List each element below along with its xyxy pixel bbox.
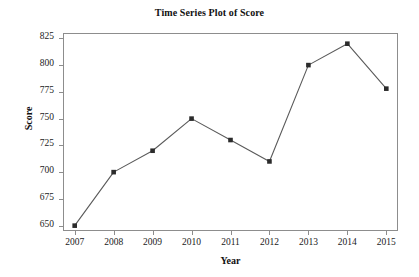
- y-tick-label: 650: [20, 219, 54, 229]
- x-tick-mark: [114, 231, 115, 235]
- data-point-marker: [189, 116, 194, 121]
- x-tick-label: 2015: [365, 237, 407, 247]
- data-point-marker: [111, 170, 116, 175]
- data-point-marker: [228, 138, 233, 143]
- x-tick-mark: [347, 231, 348, 235]
- y-tick-label: 675: [20, 192, 54, 202]
- x-tick-label: 2010: [171, 237, 213, 247]
- x-tick-mark: [308, 231, 309, 235]
- x-tick-label: 2014: [326, 237, 368, 247]
- y-tick-label: 800: [20, 58, 54, 68]
- y-tick-label: 825: [20, 31, 54, 41]
- x-tick-label: 2012: [248, 237, 290, 247]
- x-tick-mark: [192, 231, 193, 235]
- x-tick-label: 2007: [54, 237, 96, 247]
- score-marker-group: [72, 41, 388, 228]
- data-point-marker: [306, 63, 311, 68]
- time-series-chart: Time Series Plot of Score 65067570072575…: [0, 0, 419, 277]
- x-tick-mark: [386, 231, 387, 235]
- x-tick-mark: [153, 231, 154, 235]
- x-tick-mark: [231, 231, 232, 235]
- x-axis-title: Year: [63, 255, 398, 266]
- chart-title: Time Series Plot of Score: [0, 7, 419, 18]
- data-point-marker: [384, 86, 389, 91]
- x-tick-label: 2013: [287, 237, 329, 247]
- x-tick-mark: [269, 231, 270, 235]
- data-series-layer: [63, 33, 398, 231]
- score-line: [75, 44, 387, 226]
- x-tick-mark: [75, 231, 76, 235]
- data-point-marker: [72, 223, 77, 228]
- y-axis-title: Score: [23, 89, 34, 149]
- x-tick-label: 2008: [93, 237, 135, 247]
- x-tick-label: 2009: [132, 237, 174, 247]
- data-point-marker: [267, 159, 272, 164]
- y-tick-label: 700: [20, 165, 54, 175]
- data-point-marker: [345, 41, 350, 46]
- x-tick-label: 2011: [210, 237, 252, 247]
- data-point-marker: [150, 148, 155, 153]
